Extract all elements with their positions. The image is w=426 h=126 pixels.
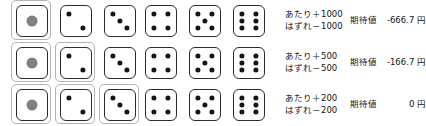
pip xyxy=(209,109,214,114)
pip xyxy=(27,58,38,69)
die-icon xyxy=(189,5,221,37)
pip xyxy=(209,12,214,17)
die-face-1[interactable] xyxy=(14,45,50,81)
pip xyxy=(253,54,258,59)
die-face-2[interactable] xyxy=(58,3,94,39)
pip xyxy=(152,96,157,101)
pip xyxy=(209,25,214,30)
expected-value-amount: -166.7 円 xyxy=(387,57,426,68)
die-icon xyxy=(16,89,48,121)
die-face-5[interactable] xyxy=(187,45,223,81)
die-icon xyxy=(60,89,92,121)
pip xyxy=(240,60,245,65)
die-face-5[interactable] xyxy=(187,3,223,39)
pip xyxy=(253,102,258,107)
pip xyxy=(117,60,122,65)
die-face-1[interactable] xyxy=(14,3,50,39)
pip xyxy=(152,12,157,17)
pip xyxy=(165,12,170,17)
dice-strip xyxy=(0,42,280,84)
pip xyxy=(253,67,258,72)
die-face-1[interactable] xyxy=(14,87,50,123)
pip xyxy=(202,18,207,23)
die-icon xyxy=(145,89,177,121)
pip xyxy=(124,67,129,72)
pip xyxy=(240,109,245,114)
win-payoff-label: あたり＋1000 xyxy=(285,9,351,21)
pip xyxy=(124,109,129,114)
pip xyxy=(111,12,116,17)
pip xyxy=(67,96,72,101)
expected-value-amount: 0 円 xyxy=(409,99,426,110)
die-icon xyxy=(16,5,48,37)
pip xyxy=(240,54,245,59)
die-face-4[interactable] xyxy=(143,3,179,39)
expected-value-label: 期待値 xyxy=(350,57,377,68)
pip xyxy=(196,12,201,17)
pip xyxy=(165,109,170,114)
die-icon xyxy=(145,5,177,37)
die-face-4[interactable] xyxy=(143,45,179,81)
pip xyxy=(253,60,258,65)
dice-expected-value-diagram: あたり＋1000 はずれ－1000 期待値 -666.7 円 xyxy=(0,0,426,126)
die-icon xyxy=(16,47,48,79)
dice-strip xyxy=(0,84,280,126)
pip xyxy=(124,25,129,30)
pip xyxy=(202,102,207,107)
pip xyxy=(67,54,72,59)
die-icon xyxy=(60,47,92,79)
die-icon xyxy=(233,5,265,37)
pip xyxy=(152,54,157,59)
pip xyxy=(196,109,201,114)
pip xyxy=(196,67,201,72)
die-icon xyxy=(104,5,136,37)
die-face-3[interactable] xyxy=(102,3,138,39)
pip xyxy=(240,102,245,107)
die-face-2[interactable] xyxy=(58,87,94,123)
pip xyxy=(240,18,245,23)
pip xyxy=(165,54,170,59)
diagram-row: あたり＋500 はずれ－500 期待値 -166.7 円 xyxy=(0,42,426,84)
pip xyxy=(117,18,122,23)
die-face-5[interactable] xyxy=(187,87,223,123)
pip xyxy=(80,67,85,72)
pip xyxy=(165,25,170,30)
pip xyxy=(253,18,258,23)
diagram-row: あたり＋200 はずれ－200 期待値 0 円 xyxy=(0,84,426,126)
pip xyxy=(165,67,170,72)
diagram-row: あたり＋1000 はずれ－1000 期待値 -666.7 円 xyxy=(0,0,426,42)
lose-payoff-label: はずれ－200 xyxy=(285,105,351,117)
die-face-4[interactable] xyxy=(143,87,179,123)
pip xyxy=(27,100,38,111)
pip xyxy=(111,96,116,101)
pip xyxy=(152,109,157,114)
pip xyxy=(253,109,258,114)
win-payoff-label: あたり＋500 xyxy=(285,51,351,63)
die-face-6[interactable] xyxy=(231,3,267,39)
pip xyxy=(196,54,201,59)
die-face-6[interactable] xyxy=(231,87,267,123)
die-icon xyxy=(104,47,136,79)
expected-value: 期待値 -666.7 円 xyxy=(350,15,426,26)
pip xyxy=(196,25,201,30)
die-face-6[interactable] xyxy=(231,45,267,81)
row-annotation: あたり＋200 はずれ－200 期待値 0 円 xyxy=(280,84,426,126)
row-annotation: あたり＋500 はずれ－500 期待値 -166.7 円 xyxy=(280,42,426,84)
expected-value-label: 期待値 xyxy=(350,99,377,110)
pip xyxy=(253,96,258,101)
pip xyxy=(117,102,122,107)
pip xyxy=(165,96,170,101)
lose-payoff-label: はずれ－500 xyxy=(285,63,351,75)
die-face-3[interactable] xyxy=(102,87,138,123)
die-face-3[interactable] xyxy=(102,45,138,81)
die-icon xyxy=(233,89,265,121)
pip xyxy=(202,60,207,65)
pip xyxy=(240,67,245,72)
expected-value: 期待値 -166.7 円 xyxy=(350,57,426,68)
pip xyxy=(209,54,214,59)
die-icon xyxy=(189,47,221,79)
die-face-2[interactable] xyxy=(58,45,94,81)
pip xyxy=(196,96,201,101)
die-icon xyxy=(104,89,136,121)
pip xyxy=(253,12,258,17)
